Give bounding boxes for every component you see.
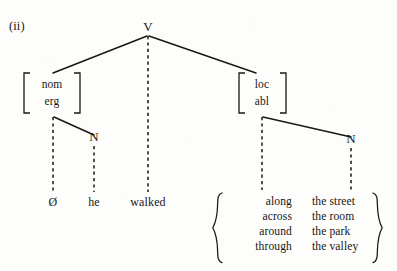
alt-noun-item-the-room: the room (312, 210, 354, 223)
feature-bracket-nom-erg: nom erg (24, 73, 80, 113)
edge-v-to-nom-erg (53, 36, 147, 73)
alt-prep-item-along: along (266, 195, 292, 208)
alt-prep-item-across: across (262, 210, 292, 223)
edge-v-to-loc-abl (149, 36, 256, 73)
left-square-bracket-open-nom-erg (24, 73, 30, 113)
edge-loc-abl-to-n-right (263, 117, 351, 137)
leaf-he: he (88, 195, 100, 209)
syntactic-tree-diagram: (ii) V nom erg N loc abl (0, 0, 397, 271)
feature-abl-label: abl (255, 95, 269, 107)
left-curly-brace (213, 193, 222, 263)
feature-bracket-loc-abl: loc abl (239, 73, 286, 113)
leaf-walked: walked (130, 195, 166, 209)
alt-prep-item-through: through (255, 240, 292, 253)
alt-noun-item-the-valley: the valley (312, 240, 358, 253)
node-n-left-label: N (89, 129, 99, 144)
alt-prep-item-around: around (259, 225, 292, 238)
alt-noun-item-the-street: the street (312, 195, 356, 208)
node-n-right-label: N (346, 131, 356, 146)
left-square-bracket-close-nom-erg (74, 73, 80, 113)
figure-canvas: (ii) V nom erg N loc abl (0, 0, 397, 271)
right-square-bracket-close-loc-abl (280, 73, 286, 113)
feature-erg-label: erg (45, 95, 60, 108)
edge-nom-erg-to-n-left (54, 117, 94, 135)
alternation-column-prepositions: along across around through (255, 195, 292, 253)
root-node-v-label: V (143, 19, 153, 34)
feature-loc-label: loc (255, 78, 269, 90)
leaf-zero-morpheme: Ø (49, 195, 58, 209)
example-number-label: (ii) (9, 19, 25, 33)
feature-nom-label: nom (42, 78, 63, 90)
alt-noun-item-the-park: the park (312, 225, 351, 238)
right-curly-brace (373, 193, 382, 263)
right-square-bracket-open-loc-abl (239, 73, 245, 113)
alternation-column-noun-phrases: the street the room the park the valley (312, 195, 358, 253)
